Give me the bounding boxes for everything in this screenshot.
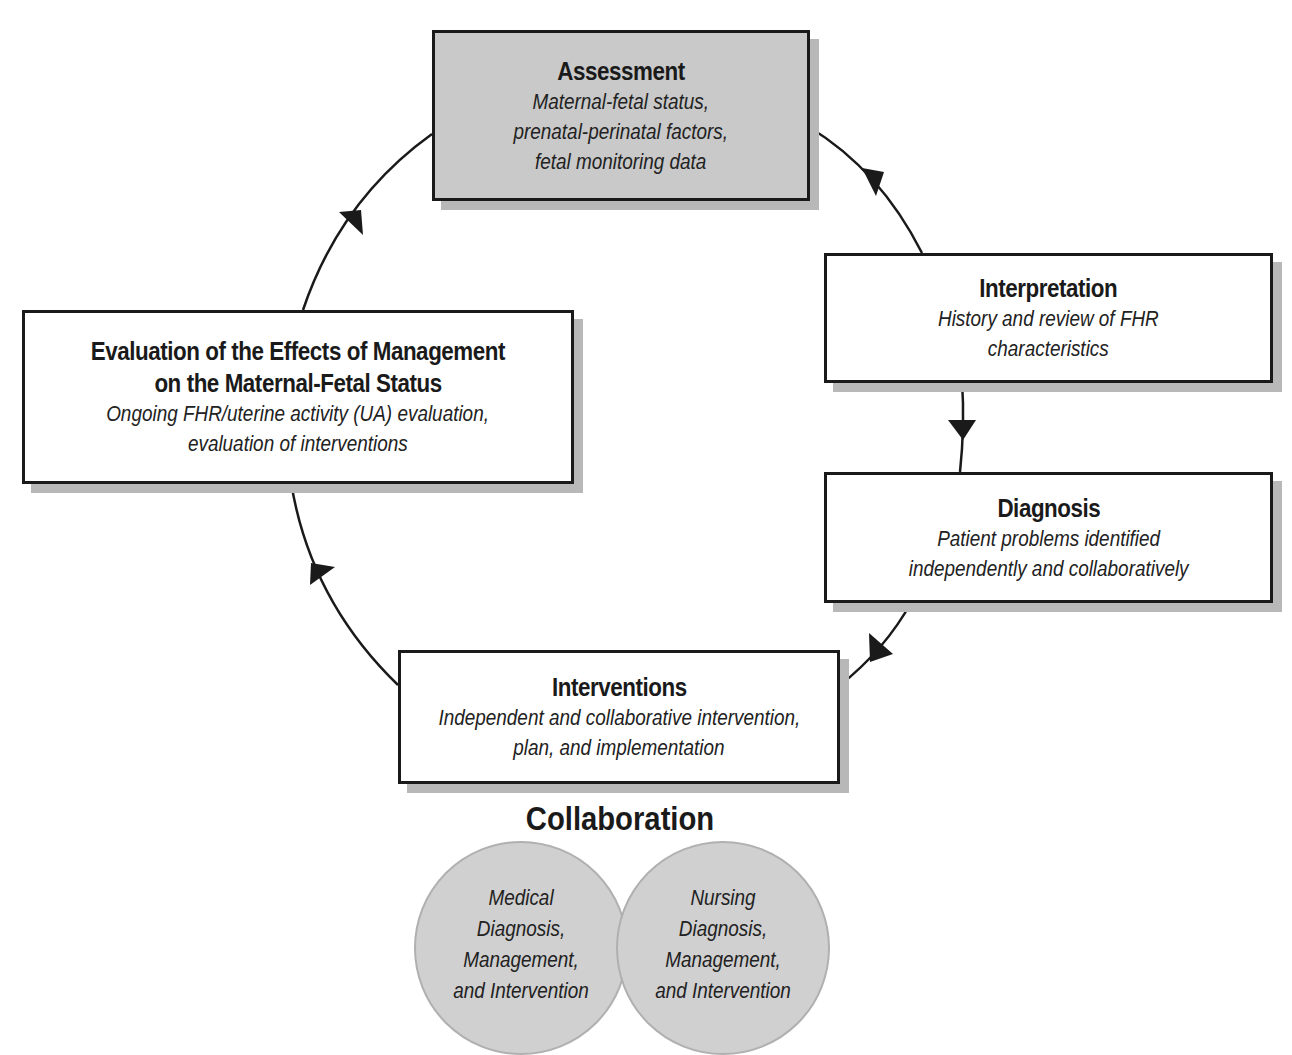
arrow-down-right-icon (862, 168, 884, 196)
interpretation-desc-line-1: History and review of FHR (938, 304, 1159, 334)
assessment-title: Assessment (557, 55, 684, 87)
evaluation-box: Evaluation of the Effects of Management … (22, 310, 574, 484)
interpretation-box: Interpretation History and review of FHR… (824, 253, 1273, 383)
nursing-line-4: and Intervention (637, 975, 809, 1006)
interpretation-title: Interpretation (979, 272, 1117, 304)
arrow-up-right-icon (339, 210, 363, 235)
connector-assessment-interpretation (809, 127, 922, 253)
diagnosis-desc-line-1: Patient problems identified (937, 524, 1160, 554)
diagnosis-desc-line-2: independently and collaboratively (909, 554, 1189, 584)
assessment-desc-line-3: fetal monitoring data (535, 147, 706, 177)
nursing-circle-label: Nursing Diagnosis, Management, and Inter… (637, 882, 809, 1006)
nursing-line-2: Diagnosis, (637, 913, 809, 944)
medical-line-1: Medical (435, 882, 607, 913)
interpretation-desc-line-2: characteristics (988, 334, 1109, 364)
interventions-box: Interventions Independent and collaborat… (398, 650, 840, 784)
assessment-box: Assessment Maternal-fetal status, prenat… (432, 30, 810, 201)
assessment-desc-line-1: Maternal-fetal status, (533, 87, 710, 117)
interventions-desc-line-2: plan, and implementation (513, 733, 724, 763)
nursing-line-1: Nursing (637, 882, 809, 913)
nursing-line-3: Management, (637, 944, 809, 975)
arrow-down-icon (948, 420, 976, 440)
medical-line-2: Diagnosis, (435, 913, 607, 944)
evaluation-title-line-2: on the Maternal-Fetal Status (154, 367, 441, 399)
medical-circle-label: Medical Diagnosis, Management, and Inter… (435, 882, 607, 1006)
evaluation-desc-line-2: evaluation of interventions (188, 429, 408, 459)
interventions-desc-line-1: Independent and collaborative interventi… (438, 703, 800, 733)
diagnosis-box: Diagnosis Patient problems identified in… (824, 472, 1273, 603)
medical-line-3: Management, (435, 944, 607, 975)
assessment-desc-line-2: prenatal-perinatal factors, (514, 117, 729, 147)
evaluation-desc-line-1: Ongoing FHR/uterine activity (UA) evalua… (107, 399, 490, 429)
interventions-title: Interventions (552, 671, 687, 703)
connector-interventions-evaluation (291, 482, 398, 685)
collaboration-title: Collaboration (448, 798, 792, 838)
connector-evaluation-assessment (303, 134, 432, 310)
medical-line-4: and Intervention (435, 975, 607, 1006)
evaluation-title-line-1: Evaluation of the Effects of Management (91, 335, 505, 367)
diagnosis-title: Diagnosis (997, 492, 1100, 524)
